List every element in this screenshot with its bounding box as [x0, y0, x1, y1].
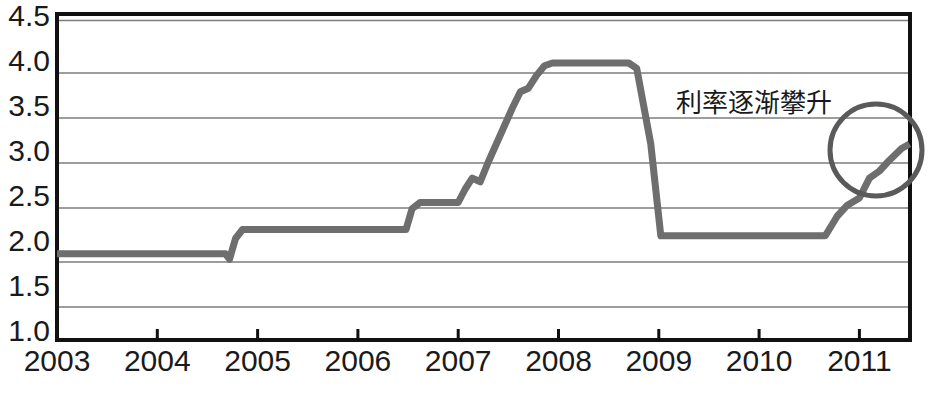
x-tick-label: 2010: [726, 344, 793, 377]
x-tick-label: 2004: [124, 344, 191, 377]
x-tick-label: 2011: [827, 344, 892, 377]
y-tick-label: 2.5: [8, 179, 50, 212]
y-tick-label: 3.0: [8, 134, 50, 167]
x-tick-label: 2008: [525, 344, 592, 377]
y-tick-label: 4.0: [8, 44, 50, 77]
y-tick-label: 3.5: [8, 89, 50, 122]
x-tick-label: 2009: [625, 344, 692, 377]
y-tick-label: 4.5: [8, 0, 50, 32]
rising-rates-annotation: 利率逐渐攀升: [676, 88, 832, 118]
x-axis-labels: 200320042005200620072008200920102011: [24, 344, 892, 377]
line-chart: 4.54.03.53.02.52.01.51.0 200320042005200…: [0, 0, 929, 411]
x-tick-label: 2003: [24, 344, 91, 377]
y-tick-label: 2.0: [8, 224, 50, 257]
x-tick-label: 2005: [224, 344, 291, 377]
chart-container: 4.54.03.53.02.52.01.51.0 200320042005200…: [0, 0, 929, 411]
x-tick-label: 2006: [325, 344, 392, 377]
y-tick-label: 1.5: [8, 269, 50, 302]
x-tick-label: 2007: [425, 344, 492, 377]
y-tick-label: 1.0: [8, 314, 50, 347]
